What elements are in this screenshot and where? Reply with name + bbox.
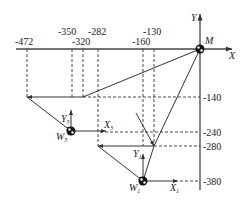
origin-w1-marker xyxy=(139,177,148,186)
x-tick-label: -282 xyxy=(88,26,106,37)
origin-m-marker xyxy=(196,45,205,54)
y-tick-label: -380 xyxy=(203,176,221,187)
y-axis-label: Y xyxy=(191,12,198,23)
origin-m-label: M xyxy=(204,35,214,46)
x-tick-label: -472 xyxy=(15,36,33,47)
w3-y-label: Y3 xyxy=(61,113,70,125)
w1-label: W1 xyxy=(129,182,140,194)
coordinate-diagram: X Y M -472 -350 -320 -282 -160 -130 -140… xyxy=(0,0,244,208)
path-m-to-p1 xyxy=(83,49,200,97)
y-tick-label: -140 xyxy=(203,92,221,103)
w3-x-label: X3 xyxy=(103,119,113,131)
x-tick-label: -320 xyxy=(72,36,90,47)
y-tick-label: -240 xyxy=(203,127,221,138)
w1-x-label: X1 xyxy=(169,182,179,194)
origin-w3-marker xyxy=(67,127,76,136)
path-m-to-p3 xyxy=(154,49,200,146)
path-diag xyxy=(136,113,154,146)
x-axis-label: X xyxy=(228,50,236,61)
w1-y-label: Y1 xyxy=(133,148,142,160)
x-tick-label: -160 xyxy=(132,36,150,47)
w3-label: W3 xyxy=(56,131,67,143)
path-p3-to-w1 xyxy=(143,146,154,181)
y-tick-label: -280 xyxy=(203,141,221,152)
x-tick-label: -130 xyxy=(143,26,161,37)
